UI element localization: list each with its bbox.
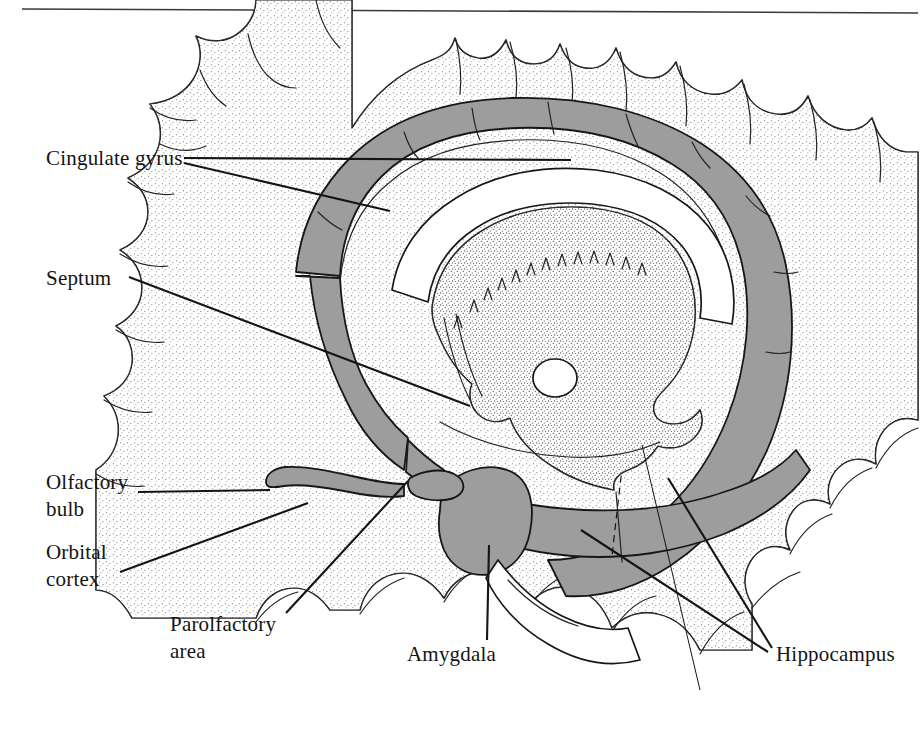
thalamus-stipple xyxy=(0,0,920,731)
massa-intermedia xyxy=(533,359,577,397)
label-olfactory-bulb-line1: Olfactory xyxy=(46,470,129,494)
label-parolfactory-area-line1: Parolfactory xyxy=(170,612,276,636)
label-parolfactory-area-line2: area xyxy=(170,639,206,663)
label-orbital-cortex-line1: Orbital xyxy=(46,540,107,564)
limbic-system-diagram: Cingulate gyrus Septum Olfactory bulb Or… xyxy=(0,0,920,731)
label-septum: Septum xyxy=(46,266,111,290)
thalamus-brainstem xyxy=(0,0,920,731)
label-cingulate-gyrus: Cingulate gyrus xyxy=(46,146,183,170)
label-amygdala: Amygdala xyxy=(407,642,497,666)
label-hippocampus: Hippocampus xyxy=(776,642,895,666)
figure-root: Cingulate gyrus Septum Olfactory bulb Or… xyxy=(0,0,920,731)
label-orbital-cortex-line2: cortex xyxy=(46,567,100,591)
label-olfactory-bulb-line2: bulb xyxy=(46,497,84,521)
